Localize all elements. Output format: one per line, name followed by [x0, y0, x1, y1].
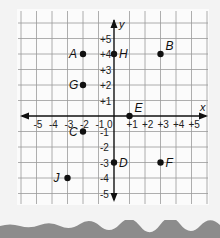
x-tick-label: +2 [142, 119, 154, 130]
y-tick-label: -2 [100, 142, 109, 153]
torn-paper-edge [0, 220, 220, 238]
point-label-c: C [69, 125, 78, 139]
point-h [111, 51, 117, 57]
x-tick-label: -5 [34, 119, 43, 130]
y-axis-up-arrow-icon [111, 19, 118, 28]
coordinate-grid-plot: yx-5-4-3-2-10+1+2+3+4+5+5+4+3+2+1-1-2-3-… [0, 0, 220, 238]
point-a [80, 51, 86, 57]
x-tick-label: +1 [127, 119, 139, 130]
point-d [111, 159, 117, 165]
x-tick-label: -4 [49, 119, 58, 130]
point-c [80, 128, 86, 134]
point-label-f: F [166, 156, 174, 170]
x-tick-label: +3 [158, 119, 170, 130]
point-label-d: D [119, 156, 128, 170]
coordinate-plane-figure: yx-5-4-3-2-10+1+2+3+4+5+5+4+3+2+1-1-2-3-… [0, 0, 220, 238]
point-label-g: G [69, 78, 78, 92]
y-tick-label: +1 [100, 96, 112, 107]
point-e [126, 113, 132, 119]
point-j [64, 175, 70, 181]
y-tick-label: -1 [100, 127, 109, 138]
x-tick-label: -2 [80, 119, 89, 130]
y-tick-label: +4 [100, 49, 112, 60]
x-axis-label: x [199, 101, 206, 113]
point-g [80, 82, 86, 88]
point-label-b: B [166, 39, 174, 53]
y-tick-label: +5 [100, 34, 112, 45]
point-label-h: H [119, 47, 128, 61]
point-label-e: E [135, 101, 144, 115]
y-tick-label: -5 [100, 189, 109, 200]
y-tick-label: -3 [100, 158, 109, 169]
y-axis-down-arrow-icon [111, 193, 118, 202]
point-b [157, 51, 163, 57]
x-tick-label: +4 [173, 119, 185, 130]
y-tick-label: +2 [100, 80, 112, 91]
y-tick-label: +3 [100, 65, 112, 76]
y-tick-label: -4 [100, 173, 109, 184]
point-label-a: A [68, 47, 77, 61]
y-axis-label: y [118, 18, 126, 30]
point-label-j: J [53, 171, 61, 185]
point-f [157, 159, 163, 165]
x-tick-label: +5 [189, 119, 201, 130]
